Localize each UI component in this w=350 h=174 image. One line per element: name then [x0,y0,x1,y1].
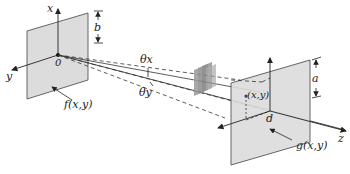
b-label: b [94,21,101,34]
z-axis-label: z [337,132,344,145]
hologram-stack [194,62,216,96]
f-xy-label: f(x,y) [63,98,93,111]
a-label: a [312,72,319,85]
origin-label: 0 [55,57,62,68]
figure-caption-cutoff [2,165,348,174]
x-axis-label: x [47,2,54,15]
theta-x-label: θx [140,53,154,66]
d-label: d [266,112,273,125]
g-xy-label: g(x,y) [296,139,328,152]
point-xy-label: (x,y) [247,89,269,100]
y-axis-label: y [5,70,13,83]
diagram-canvas: x y 0 b f(x,y) θx θy (x,y) d a z g(x,y) [0,0,350,174]
angle-markers [148,68,153,86]
theta-y-label: θy [139,86,153,99]
